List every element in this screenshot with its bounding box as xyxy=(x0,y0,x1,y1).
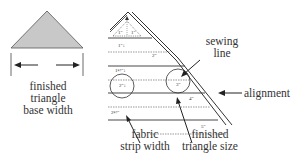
alignment-callout: alignment xyxy=(244,87,290,99)
alignment-arrow-icon xyxy=(218,90,242,96)
svg-text:3": 3" xyxy=(176,82,181,87)
triangle-size-text-2: triangle size xyxy=(172,140,248,152)
sewing-line-callout: sewing line xyxy=(192,35,252,59)
strip-width-text-2: strip width xyxy=(112,140,178,152)
folded-triangle-outline xyxy=(110,12,232,125)
sewing-line-text-1: sewing xyxy=(192,35,252,47)
right-arrow-icon xyxy=(56,62,80,68)
caption-line-2: triangle xyxy=(12,92,84,104)
base-width-caption: finished triangle base width xyxy=(12,80,84,116)
svg-text:1": 1" xyxy=(118,30,123,35)
svg-text:1"↓: 1"↓ xyxy=(118,43,125,48)
svg-text:4": 4" xyxy=(189,96,194,101)
strip-width-text-1: fabric xyxy=(112,128,178,140)
sewing-line-text-2: line xyxy=(192,47,252,59)
svg-text:2": 2" xyxy=(152,53,157,58)
finished-triangle-shape xyxy=(11,11,83,48)
svg-text:2½": 2½" xyxy=(111,110,119,115)
svg-text:1": 1" xyxy=(131,30,136,35)
svg-text:1½"↓: 1½"↓ xyxy=(115,68,126,73)
caption-line-3: base width xyxy=(12,104,84,116)
sewing-line-arrow-icon xyxy=(181,60,200,77)
fabric-strip-width-callout: fabric strip width xyxy=(112,128,178,152)
left-arrow-icon xyxy=(14,62,38,68)
finished-triangle-size-callout: finished triangle size xyxy=(172,128,248,152)
svg-text:2"↓: 2"↓ xyxy=(119,83,126,88)
caption-line-1: finished xyxy=(12,80,84,92)
triangle-size-text-1: finished xyxy=(172,128,248,140)
